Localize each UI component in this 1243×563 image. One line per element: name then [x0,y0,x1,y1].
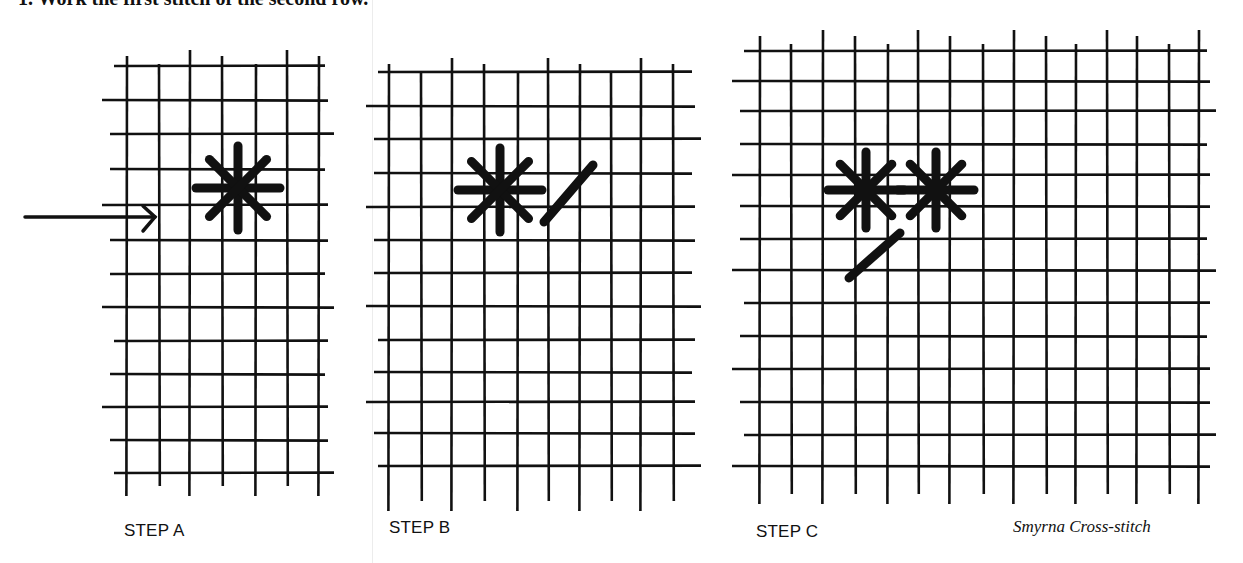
smyrna-stitch-icon [828,152,904,228]
figure-credit: Smyrna Cross-stitch [1013,517,1151,537]
caption-step-a: STEP A [124,521,184,541]
canvas-grid [366,58,701,511]
smyrna-stitch-icon [898,152,974,228]
diagram-step-a [25,50,334,496]
caption-step-c: STEP C [756,522,818,542]
caption-step-b: STEP B [389,518,450,538]
arrow-right-icon [25,206,155,231]
stitch-diagrams [0,0,1243,563]
canvas-grid [732,30,1216,504]
diagram-step-c [732,30,1216,504]
diagram-step-b [366,58,701,511]
canvas-grid [102,50,334,496]
smyrna-stitch-icon [196,146,280,230]
smyrna-stitch-icon [458,148,542,232]
